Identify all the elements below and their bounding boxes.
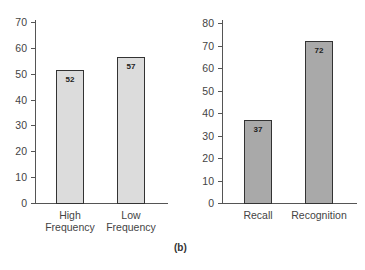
- x-category-label-line: Frequency: [35, 221, 105, 233]
- right-y-tick: [218, 113, 223, 114]
- left-y-tick: [31, 74, 36, 75]
- x-category-label-line: High: [35, 209, 105, 221]
- x-category-label: High Frequency: [35, 209, 105, 233]
- right-y-tick-label: 40: [192, 107, 214, 119]
- right-y-tick: [218, 46, 223, 47]
- bar-low-frequency: 57: [117, 57, 145, 204]
- right-y-tick-label: 30: [192, 130, 214, 142]
- left-y-tick: [31, 48, 36, 49]
- x-category-label: Low Frequency: [96, 209, 166, 233]
- right-y-tick-label: 50: [192, 85, 214, 97]
- right-y-tick-label: 10: [192, 175, 214, 187]
- right-y-tick: [218, 158, 223, 159]
- right-y-tick: [218, 136, 223, 137]
- left-y-tick-label: 60: [5, 42, 27, 54]
- right-y-tick-label: 20: [192, 152, 214, 164]
- bar-value-label: 52: [57, 75, 83, 84]
- left-y-tick: [31, 177, 36, 178]
- right-y-tick: [218, 23, 223, 24]
- bar-recall: 37: [244, 120, 272, 204]
- panel-label: (b): [174, 242, 187, 253]
- x-category-label-line: Recognition: [284, 209, 354, 221]
- right-y-tick-label: 0: [192, 197, 214, 209]
- left-y-tick-label: 20: [5, 145, 27, 157]
- left-y-tick-label: 30: [5, 119, 27, 131]
- right-y-tick: [218, 68, 223, 69]
- right-y-tick-label: 70: [192, 40, 214, 52]
- left-y-tick: [31, 22, 36, 23]
- right-y-tick-label: 80: [192, 17, 214, 29]
- right-y-tick: [218, 203, 223, 204]
- left-x-axis: [35, 203, 168, 204]
- x-category-label: Recall: [223, 209, 293, 221]
- bar-value-label: 57: [118, 62, 144, 71]
- bar-value-label: 37: [245, 125, 271, 134]
- left-y-tick-label: 0: [5, 197, 27, 209]
- bar-high-frequency: 52: [56, 70, 84, 204]
- left-y-tick: [31, 203, 36, 204]
- left-y-tick-label: 50: [5, 68, 27, 80]
- left-y-tick: [31, 151, 36, 152]
- left-y-tick-label: 40: [5, 94, 27, 106]
- right-y-tick: [218, 91, 223, 92]
- right-y-tick: [218, 181, 223, 182]
- x-category-label-line: Frequency: [96, 221, 166, 233]
- x-category-label-line: Low: [96, 209, 166, 221]
- bar-value-label: 72: [306, 46, 332, 55]
- left-y-tick-label: 10: [5, 171, 27, 183]
- right-y-axis: [222, 20, 223, 204]
- x-category-label-line: Recall: [223, 209, 293, 221]
- left-y-tick: [31, 100, 36, 101]
- right-x-axis: [222, 203, 357, 204]
- bar-recognition: 72: [305, 41, 333, 204]
- x-category-label: Recognition: [284, 209, 354, 221]
- left-y-tick: [31, 125, 36, 126]
- right-y-tick-label: 60: [192, 62, 214, 74]
- left-y-tick-label: 70: [5, 16, 27, 28]
